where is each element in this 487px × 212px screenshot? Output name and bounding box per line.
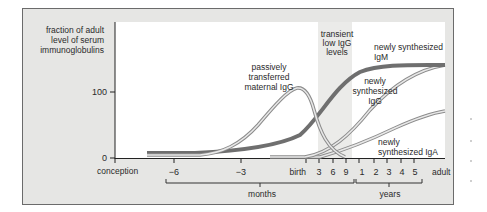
y-axis-label-line1: fraction of adult	[46, 25, 105, 35]
x-tick-label: 5	[412, 167, 417, 177]
iga-label-line1: newly	[378, 137, 400, 147]
x-tick-label: 6	[330, 167, 335, 177]
x-tick-label: 1	[359, 167, 364, 177]
y-axis-label-line3: immunoglobulins	[40, 45, 104, 55]
x-tick-label: 4	[399, 167, 404, 177]
x-tick-label: 9	[343, 167, 348, 177]
x-tick-label: −3	[236, 167, 246, 177]
igg-label-line2: synthesized	[353, 86, 398, 96]
x-tick-label-birth: birth	[289, 167, 306, 177]
x-tick-label: 2	[373, 167, 378, 177]
months-label: months	[248, 189, 276, 199]
x-label-adult: adult	[432, 167, 451, 177]
iga-label-line2: synthesized IgA	[378, 147, 438, 157]
margin-mark	[470, 118, 472, 120]
maternal-igg-label-line3: maternal IgG	[244, 82, 293, 92]
years-label: years	[380, 189, 401, 199]
margin-mark	[470, 180, 472, 182]
x-tick-label: 3	[316, 167, 321, 177]
immunoglobulin-chart: fraction of adult level of serum immunog…	[0, 0, 487, 212]
y-axis-label-line2: level of serum	[51, 35, 104, 45]
igm-label-line2: IgM	[374, 52, 388, 62]
x-tick-label: −6	[169, 167, 179, 177]
months-bracket	[166, 179, 354, 183]
igg-label-line3: IgG	[368, 96, 382, 106]
igm-label-line1: newly synthesized	[374, 42, 443, 52]
x-tick-label: 3	[386, 167, 391, 177]
margin-mark	[470, 140, 472, 142]
transient-label-line3: levels	[326, 47, 348, 57]
maternal-igg-label-line1: passively	[252, 62, 288, 72]
x-label-conception: conception	[97, 166, 138, 176]
y-tick-label-0: 0	[102, 153, 107, 163]
igg-label-line1: newly	[364, 76, 386, 86]
margin-mark	[470, 160, 472, 162]
y-tick-label-100: 100	[92, 87, 107, 97]
years-bracket	[356, 179, 422, 183]
maternal-igg-label-line2: transferred	[248, 72, 289, 82]
